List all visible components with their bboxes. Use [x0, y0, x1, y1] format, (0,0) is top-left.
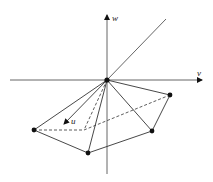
hidden-edge-right [84, 95, 170, 130]
edge-lower-right-right [152, 95, 170, 131]
edge-origin-right [107, 80, 170, 95]
edge-left-bottom [34, 130, 88, 153]
diagram-canvas: w v u [0, 0, 213, 182]
vertex-bottom [86, 151, 91, 156]
diagonal-line [107, 19, 166, 80]
origin-vertex [104, 77, 109, 82]
vertex-right [168, 93, 173, 98]
edge-bottom-lower-right [88, 131, 152, 153]
u-axis-label: u [71, 117, 76, 126]
v-axis-label: v [197, 69, 201, 78]
polyhedron-diagram [0, 0, 213, 182]
vertex-lower-right [150, 129, 155, 134]
vertex-left [32, 128, 37, 133]
w-axis-label: w [112, 14, 118, 23]
